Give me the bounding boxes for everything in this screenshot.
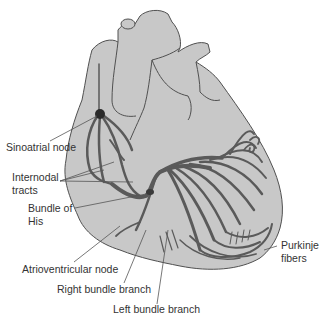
label-left-bundle-branch: Left bundle branch — [113, 303, 200, 315]
label-right-bundle-branch: Right bundle branch — [57, 283, 151, 295]
label-bundle-of-his-line1: Bundle of — [28, 202, 72, 214]
label-purkinje-fibers-line2: fibers — [281, 252, 307, 264]
av-node-shape — [146, 189, 154, 195]
sa-node-shape — [95, 109, 105, 119]
label-internodal-tracts-line1: Internodal — [12, 171, 59, 183]
label-bundle-of-his-line2: His — [28, 215, 43, 227]
label-sinoatrial-node: Sinoatrial node — [6, 141, 76, 153]
label-atrioventricular-node: Atrioventricular node — [22, 263, 118, 275]
label-internodal-tracts-line2: tracts — [12, 184, 38, 196]
label-purkinje-fibers-line1: Purkinje — [281, 239, 319, 251]
